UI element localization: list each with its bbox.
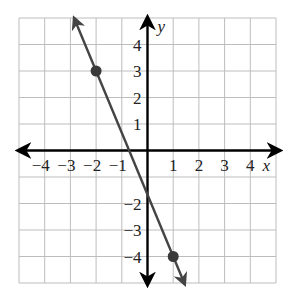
x-tick-label: 2 [195,156,204,175]
x-tick-label: −1 [109,156,127,175]
coordinate-plane: −4−3−2−112344321−2−3−4xy [0,0,290,289]
y-axis-label: y [156,17,166,36]
y-tick-label: 3 [133,62,142,81]
x-tick-label: −2 [83,156,101,175]
axes [18,17,280,285]
tick-labels: −4−3−2−112344321−2−3−4xy [32,17,271,267]
data-point [168,251,179,262]
y-tick-label: 2 [133,89,142,108]
x-tick-label: 4 [246,156,255,175]
y-tick-label: 1 [133,115,142,134]
data-point [91,66,102,77]
y-tick-label: −3 [123,221,141,240]
y-tick-label: 4 [133,36,142,55]
y-tick-label: −2 [123,195,141,214]
x-tick-label: −3 [57,156,75,175]
y-tick-label: −4 [123,248,142,267]
x-axis-label: x [262,156,271,175]
x-tick-label: 3 [220,156,229,175]
x-tick-label: 1 [169,156,178,175]
graph-svg: −4−3−2−112344321−2−3−4xy [0,0,290,289]
x-tick-label: −4 [32,156,51,175]
